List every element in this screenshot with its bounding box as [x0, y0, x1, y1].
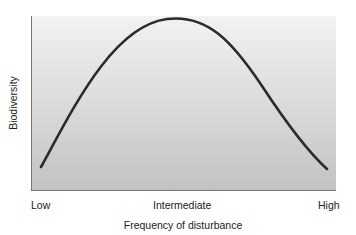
- x-tick-intermediate: Intermediate: [153, 199, 211, 211]
- y-axis-label: Biodiversity: [7, 76, 19, 130]
- biodiversity-curve: [32, 16, 337, 191]
- x-tick-low: Low: [31, 199, 50, 211]
- x-tick-high: High: [318, 199, 340, 211]
- x-axis-label: Frequency of disturbance: [0, 219, 356, 231]
- plot-area: [31, 16, 336, 191]
